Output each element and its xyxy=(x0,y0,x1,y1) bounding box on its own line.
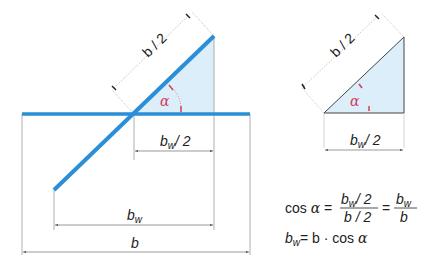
equals-sign: = xyxy=(382,200,390,216)
left-hyp-label: b / 2 xyxy=(139,30,170,61)
left-angle-label: α xyxy=(160,93,170,109)
formula-cos: cos α = xyxy=(285,200,332,216)
fraction2-numerator: bw xyxy=(396,191,412,209)
left-halfwidth-label: bw/ 2 xyxy=(160,133,191,151)
diagram-canvas: b / 2 α bw/ 2 bw b b / 2 α bw/ 2 xyxy=(0,0,431,265)
fraction2-denominator: b xyxy=(400,209,408,225)
left-width-label: bw xyxy=(127,207,143,225)
formulas: cos α = bw/ 2 b / 2 = bw b bw= b · cos α xyxy=(285,191,417,248)
right-halfwidth-label: bw/ 2 xyxy=(350,132,381,150)
formula-bw: bw= b · cos α xyxy=(285,230,368,248)
fraction1-numerator: bw/ 2 xyxy=(341,191,372,209)
left-total-label: b xyxy=(131,235,139,251)
right-figure: b / 2 α bw/ 2 xyxy=(302,14,404,150)
left-figure: b / 2 α bw/ 2 bw b xyxy=(22,12,250,255)
fraction1-denominator: b / 2 xyxy=(344,209,371,225)
right-hyp-label: b / 2 xyxy=(327,30,358,61)
right-angle-label: α xyxy=(350,93,360,109)
